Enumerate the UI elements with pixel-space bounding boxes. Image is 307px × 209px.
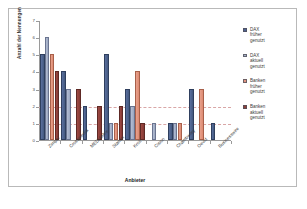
bar (45, 37, 50, 140)
y-tick-label: 5 (33, 53, 35, 57)
y-tick-mark (36, 38, 39, 39)
chart-figure: Anzahl der Nennungen 01234567 ZimpelCros… (8, 8, 297, 187)
legend-swatch (243, 79, 247, 83)
bar (140, 123, 145, 140)
bar-group (168, 20, 187, 140)
x-tick-mark (146, 141, 147, 144)
x-tick-mark (231, 141, 232, 144)
bar (61, 71, 66, 140)
plot-area: 01234567 ZimpelCrossmediaMEDIAMeeStammKr… (39, 21, 231, 141)
legend-swatch (243, 54, 247, 58)
bar-group (125, 20, 144, 140)
x-tick-mark (210, 141, 211, 144)
bar-group (211, 20, 230, 140)
bar (152, 123, 157, 140)
bar-group (61, 20, 80, 140)
y-tick-label: 6 (33, 36, 35, 40)
legend-item: Bankenaktuellgenutzt (243, 104, 295, 120)
x-tick-mark (124, 141, 125, 144)
legend-swatch (243, 28, 247, 32)
legend-item: Bankenfrühergenutzt (243, 78, 295, 94)
bar-group (104, 20, 123, 140)
bar (168, 123, 173, 140)
bar (50, 54, 55, 140)
y-tick-label: 4 (33, 70, 35, 74)
bar (135, 71, 140, 140)
bar (66, 89, 71, 140)
bar-group (189, 20, 208, 140)
legend-label-line: genutzt (250, 38, 295, 43)
y-tick-label: 3 (33, 87, 35, 91)
bar-group (40, 20, 59, 140)
x-tick-mark (188, 141, 189, 144)
y-tick-mark (36, 90, 39, 91)
legend-swatch (243, 105, 247, 109)
x-axis-title: Anbieter (39, 177, 231, 183)
bar (130, 106, 135, 140)
bar (199, 89, 204, 140)
y-tick-label: 1 (33, 122, 35, 126)
y-tick-mark (36, 72, 39, 73)
bar (104, 54, 109, 140)
y-tick-mark (36, 55, 39, 56)
x-tick-mark (60, 141, 61, 144)
legend-item: DAXfrühergenutzt (243, 27, 295, 43)
bar (125, 89, 130, 140)
bar-group (83, 20, 102, 140)
chart-legend: DAXfrühergenutztDAXaktuellgenutztBankenf… (243, 27, 295, 130)
legend-item: DAXaktuellgenutzt (243, 53, 295, 69)
y-tick-label: 0 (33, 139, 35, 143)
bar (173, 123, 178, 140)
bar (55, 71, 60, 140)
legend-label-line: genutzt (250, 64, 295, 69)
bar (40, 54, 45, 140)
x-tick-mark (82, 141, 83, 144)
legend-label-line: genutzt (250, 89, 295, 94)
y-tick-label: 7 (33, 19, 35, 23)
legend-label-line: genutzt (250, 115, 295, 120)
bar-group (147, 20, 166, 140)
x-tick-mark (103, 141, 104, 144)
y-tick-mark (36, 21, 39, 22)
y-tick-label: 2 (33, 105, 35, 109)
bar (211, 123, 216, 140)
y-tick-mark (36, 141, 39, 142)
y-axis-title: Anzahl der Nennungen (17, 7, 22, 59)
x-tick-mark (167, 141, 168, 144)
